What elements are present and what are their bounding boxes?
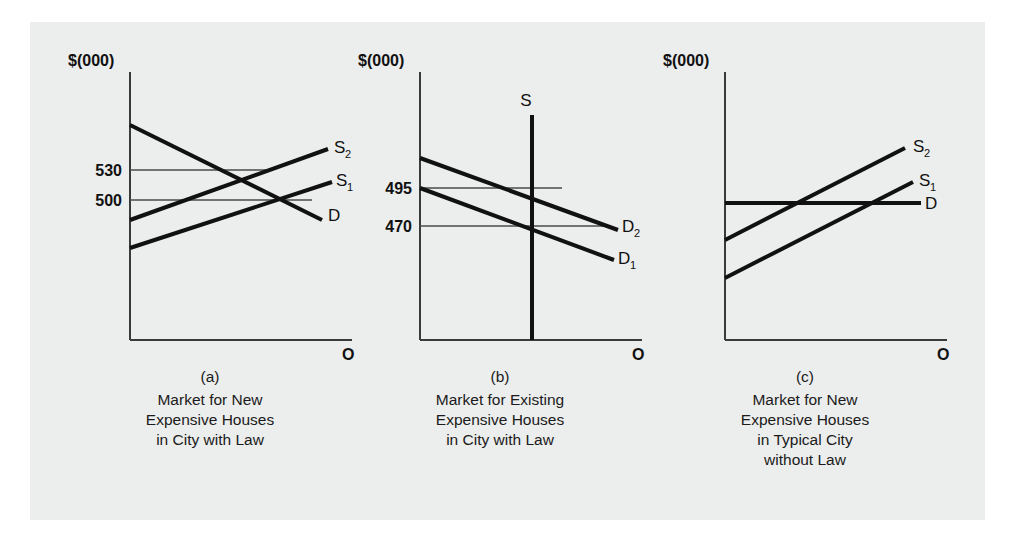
curve-demand-a bbox=[130, 125, 322, 220]
chart-panel-c: $(000) S 2 S 1 D Q bbox=[655, 30, 955, 360]
caption-panel-c: (c) Market for New Expensive Houses in T… bbox=[655, 367, 955, 470]
curve-demand-d1-b bbox=[420, 188, 614, 260]
curve-sub-s1-c: 1 bbox=[930, 181, 936, 193]
curve-label-d-c: D bbox=[925, 194, 937, 213]
curve-label-s2-a: S bbox=[334, 138, 345, 157]
chart-c-svg: $(000) S 2 S 1 D Q bbox=[655, 30, 955, 360]
chart-b-svg: $(000) 495 470 S D 2 D 1 Q bbox=[350, 30, 650, 360]
curve-supply-s1-a bbox=[130, 182, 332, 248]
caption-letter-a: (a) bbox=[60, 367, 360, 387]
caption-line-a-1: Market for New bbox=[60, 390, 360, 410]
caption-line-c-1: Market for New bbox=[655, 390, 955, 410]
caption-letter-b: (b) bbox=[350, 367, 650, 387]
curve-label-s2-c: S bbox=[913, 137, 924, 156]
chart-a-svg: $(000) 530 500 S 2 S 1 D Q bbox=[60, 30, 360, 360]
chart-panel-a: $(000) 530 500 S 2 S 1 D Q bbox=[60, 30, 360, 360]
y-axis-label-b: $(000) bbox=[358, 52, 404, 69]
caption-line-b-3: in City with Law bbox=[350, 430, 650, 450]
chart-panel-b: $(000) 495 470 S D 2 D 1 Q bbox=[350, 30, 650, 360]
curve-sub-d2-b: 2 bbox=[634, 227, 640, 239]
caption-line-a-3: in City with Law bbox=[60, 430, 360, 450]
curve-label-s1-a: S bbox=[336, 171, 347, 190]
curve-label-s-b: S bbox=[520, 91, 531, 110]
curve-supply-s1-c bbox=[725, 182, 913, 278]
tick-label-530: 530 bbox=[95, 162, 122, 179]
caption-letter-c: (c) bbox=[655, 367, 955, 387]
curve-label-s1-c: S bbox=[919, 171, 930, 190]
curve-demand-d2-b bbox=[420, 158, 618, 230]
caption-line-a-2: Expensive Houses bbox=[60, 410, 360, 430]
curve-label-d2-b: D bbox=[622, 217, 634, 236]
caption-line-c-4: without Law bbox=[655, 450, 955, 470]
x-axis-label-b: Q bbox=[632, 346, 644, 360]
tick-label-470: 470 bbox=[385, 218, 412, 235]
curve-supply-s2-c bbox=[725, 148, 905, 240]
curve-sub-s2-c: 2 bbox=[924, 147, 930, 159]
curve-label-d-a: D bbox=[328, 206, 340, 225]
figure-panel: $(000) 530 500 S 2 S 1 D Q bbox=[30, 22, 985, 520]
caption-panel-a: (a) Market for New Expensive Houses in C… bbox=[60, 367, 360, 450]
caption-line-c-2: Expensive Houses bbox=[655, 410, 955, 430]
curve-label-d1-b: D bbox=[618, 249, 630, 268]
tick-label-500: 500 bbox=[95, 192, 122, 209]
caption-line-b-2: Expensive Houses bbox=[350, 410, 650, 430]
y-axis-label-c: $(000) bbox=[663, 52, 709, 69]
tick-label-495: 495 bbox=[385, 180, 412, 197]
y-axis-label-a: $(000) bbox=[68, 52, 114, 69]
caption-line-c-3: in Typical City bbox=[655, 430, 955, 450]
curve-sub-d1-b: 1 bbox=[630, 259, 636, 271]
caption-panel-b: (b) Market for Existing Expensive Houses… bbox=[350, 367, 650, 450]
caption-line-b-1: Market for Existing bbox=[350, 390, 650, 410]
x-axis-label-c: Q bbox=[937, 346, 949, 360]
